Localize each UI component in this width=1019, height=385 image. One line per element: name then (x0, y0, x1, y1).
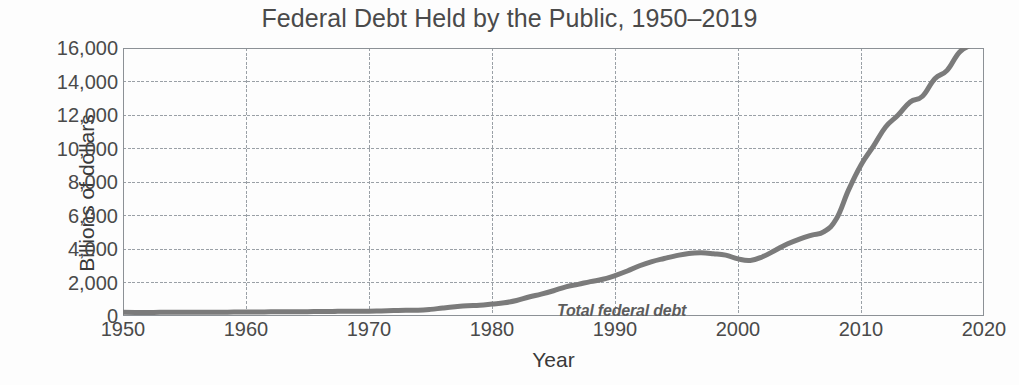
plot-svg (123, 48, 984, 316)
chart-figure: Federal Debt Held by the Public, 1950–20… (0, 0, 1019, 385)
plot-area: Total federal debt (123, 48, 984, 316)
x-tick-label: 1990 (593, 318, 638, 341)
x-tick-label: 2010 (839, 318, 884, 341)
x-tick-label: 1950 (101, 318, 146, 341)
x-tick-label: 1980 (470, 318, 515, 341)
series-annotation-total-federal-debt: Total federal debt (557, 302, 686, 320)
x-tick-label: 2020 (962, 318, 1007, 341)
x-tick-label: 2000 (716, 318, 761, 341)
x-tick-label: 1960 (224, 318, 269, 341)
x-axis-title: Year (123, 348, 984, 372)
data-line-total-federal-debt (123, 48, 972, 312)
data-series-group (123, 48, 972, 312)
x-tick-label: 1970 (347, 318, 392, 341)
